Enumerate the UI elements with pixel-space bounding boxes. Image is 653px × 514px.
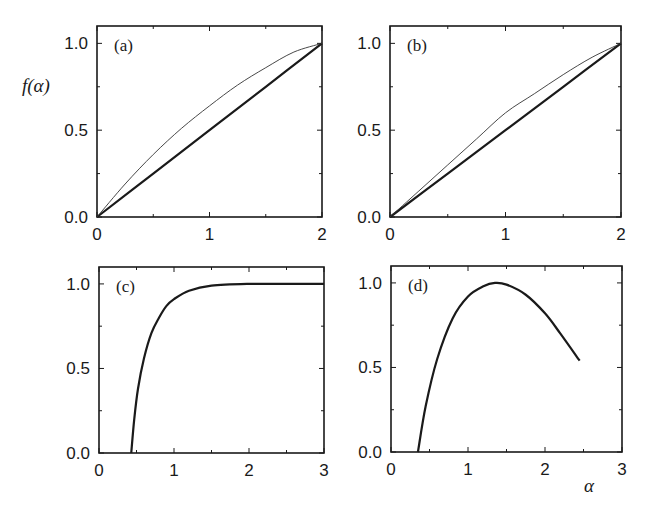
- x-tick-label: 2: [244, 461, 253, 480]
- series-thick-line: [97, 43, 322, 217]
- x-tick-label: 1: [205, 225, 214, 244]
- y-tick-label: 0.5: [358, 358, 382, 377]
- x-tick-label: 1: [169, 461, 178, 480]
- y-tick-label: 0.0: [357, 208, 381, 227]
- panel-label: (a): [114, 36, 133, 55]
- x-tick-label: 0: [92, 225, 101, 244]
- y-tick-label: 0.5: [66, 359, 90, 378]
- y-tick-label: 0.0: [64, 208, 88, 227]
- y-tick-label: 1.0: [64, 34, 88, 53]
- panel-label: (d): [408, 276, 428, 295]
- x-tick-label: 3: [319, 461, 328, 480]
- y-tick-label: 0.5: [64, 121, 88, 140]
- series-curve: [131, 284, 324, 453]
- series-curve: [418, 283, 580, 452]
- y-tick-label: 1.0: [66, 275, 90, 294]
- x-tick-label: 2: [616, 225, 625, 244]
- y-axis-title: f(α): [22, 75, 50, 97]
- y-tick-label: 1.0: [358, 274, 382, 293]
- panel-b: 0120.00.51.0(b): [357, 26, 625, 244]
- x-tick-label: 1: [501, 225, 510, 244]
- x-tick-label: 0: [94, 461, 103, 480]
- panel-d: 01230.00.51.0(d)α: [358, 266, 626, 496]
- y-tick-label: 0.0: [66, 444, 90, 463]
- series-thick-line: [390, 43, 621, 217]
- x-tick-label: 0: [386, 460, 395, 479]
- panel-label: (b): [407, 36, 427, 55]
- x-tick-label: 3: [617, 460, 626, 479]
- y-tick-label: 1.0: [357, 34, 381, 53]
- x-tick-label: 2: [317, 225, 326, 244]
- panel-c: 01230.00.51.0(c): [66, 267, 328, 480]
- panel-label: (c): [116, 277, 135, 296]
- panel-a: 0120.00.51.0(a)f(α): [22, 26, 327, 244]
- x-tick-label: 1: [463, 460, 472, 479]
- figure: 0120.00.51.0(a)f(α)0120.00.51.0(b)01230.…: [0, 0, 653, 514]
- y-tick-label: 0.5: [357, 121, 381, 140]
- y-tick-label: 0.0: [358, 443, 382, 462]
- x-tick-label: 0: [385, 225, 394, 244]
- x-tick-label: 2: [540, 460, 549, 479]
- x-axis-title: α: [584, 475, 595, 496]
